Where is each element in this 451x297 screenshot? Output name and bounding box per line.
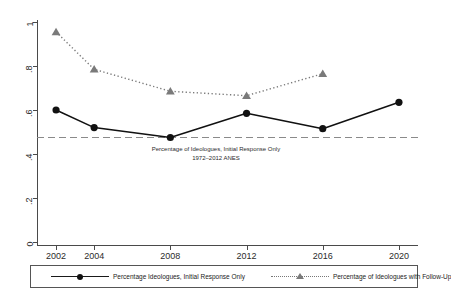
triangle-marker-icon (296, 273, 304, 279)
data-point-triangle (318, 70, 327, 77)
data-point-circle (167, 134, 174, 141)
legend-item-initial-response: Percentage Ideologues, Initial Response … (51, 266, 245, 287)
circle-marker-icon (77, 274, 83, 280)
legend-item-follow-up: Percentage of Ideologues with Follow-Up (271, 266, 451, 287)
legend-label-follow-up: Percentage of Ideologues with Follow-Up (333, 273, 451, 280)
series-line-0 (56, 102, 399, 137)
legend-label-initial-response: Percentage Ideologues, Initial Response … (113, 273, 245, 280)
data-point-circle (91, 124, 98, 131)
data-point-triangle (52, 28, 61, 35)
series-line-1 (56, 32, 323, 96)
data-point-circle (319, 125, 326, 132)
legend-key-solid-circle (51, 271, 109, 283)
legend-key-dotted-triangle (271, 271, 329, 283)
data-point-circle (52, 106, 59, 113)
chart-legend: Percentage Ideologues, Initial Response … (30, 265, 418, 288)
data-point-circle (243, 110, 250, 117)
data-point-circle (395, 99, 402, 106)
